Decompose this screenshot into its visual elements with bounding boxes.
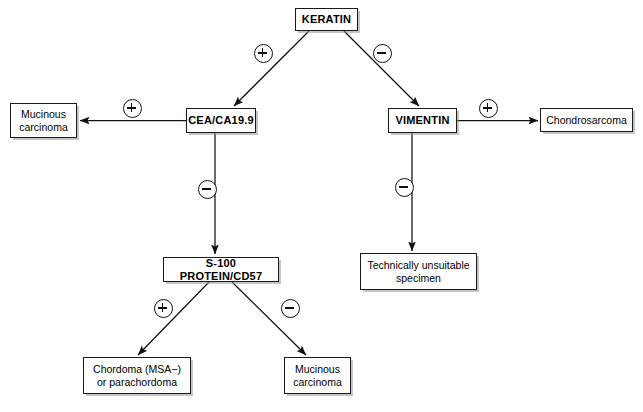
edge-s100-chordoma [138,282,209,355]
sign-minus-s100-mucinous [281,299,300,318]
node-cea-ca19-9[interactable]: CEA/CA19.9 [186,108,256,133]
flowchart-canvas: KERATIN CEA/CA19.9 VIMENTIN S-100 PROTEI… [0,0,643,412]
node-mucinous-carcinoma-left-line1: Mucinous [17,108,70,120]
sign-plus-vimentin-chondrosarcoma [479,99,498,118]
node-chordoma-or-parachordoma-line2: or parachordoma [93,376,181,388]
node-vimentin[interactable]: VIMENTIN [388,108,457,133]
node-mucinous-carcinoma-bottom-line1: Mucinous [291,363,344,375]
node-technically-unsuitable-specimen[interactable]: Technically unsuitable specimen [360,253,477,290]
node-mucinous-carcinoma-left-line2: carcinoma [15,121,71,133]
edge-keratin-vimentin [344,31,419,106]
sign-plus-cea-mucinous [123,99,142,118]
node-s100-protein-cd57[interactable]: S-100 PROTEIN/CD57 [163,257,279,282]
node-mucinous-carcinoma-bottom[interactable]: Mucinous carcinoma [284,357,351,394]
node-technically-unsuitable-specimen-line1: Technically unsuitable [363,259,473,271]
node-mucinous-carcinoma-bottom-line2: carcinoma [289,376,345,388]
sign-minus-keratin-vimentin [373,44,392,63]
node-chondrosarcoma[interactable]: Chondrosarcoma [540,108,633,132]
node-mucinous-carcinoma-left[interactable]: Mucinous carcinoma [10,103,77,138]
sign-plus-s100-chordoma [154,299,173,318]
node-keratin[interactable]: KERATIN [295,8,358,31]
node-vimentin-label: VIMENTIN [391,114,453,127]
node-technically-unsuitable-specimen-line2: specimen [392,272,445,284]
sign-minus-vimentin-unsuitable [395,178,414,197]
node-keratin-label: KERATIN [298,13,355,26]
edge-s100-mucinous [232,282,306,355]
node-chordoma-or-parachordoma-line1: Chordoma (MSA−) [89,363,185,375]
node-chondrosarcoma-label: Chondrosarcoma [542,114,631,126]
sign-minus-cea-s100 [198,180,217,199]
node-chordoma-or-parachordoma[interactable]: Chordoma (MSA−) or parachordoma [83,357,191,394]
edge-keratin-cea [234,31,309,106]
node-cea-ca19-9-label: CEA/CA19.9 [184,114,258,127]
sign-plus-keratin-cea [254,44,273,63]
node-s100-protein-cd57-label: S-100 PROTEIN/CD57 [164,257,278,283]
edge-layer [0,0,643,412]
